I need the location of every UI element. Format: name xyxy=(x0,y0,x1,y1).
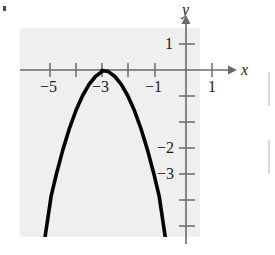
parabola-curve xyxy=(44,70,166,242)
y-axis-ticks xyxy=(179,44,195,226)
x-tick-label-1: 1 xyxy=(208,79,216,95)
y-tick-label-1: 1 xyxy=(165,36,173,52)
x-axis-label: x xyxy=(241,62,248,78)
x-tick-label--1: −1 xyxy=(145,79,162,95)
y-tick-label--2: −2 xyxy=(157,140,174,156)
x-tick-label--3: −3 xyxy=(92,79,109,95)
parabola-figure: −5 −3 −1 1 1 −2 −3 x y xyxy=(0,0,275,255)
y-axis-label: y xyxy=(182,2,189,18)
y-axis xyxy=(182,15,191,244)
x-tick-label--5: −5 xyxy=(40,79,57,95)
coordinate-plane xyxy=(0,0,275,255)
y-tick-label--3: −3 xyxy=(157,166,174,182)
